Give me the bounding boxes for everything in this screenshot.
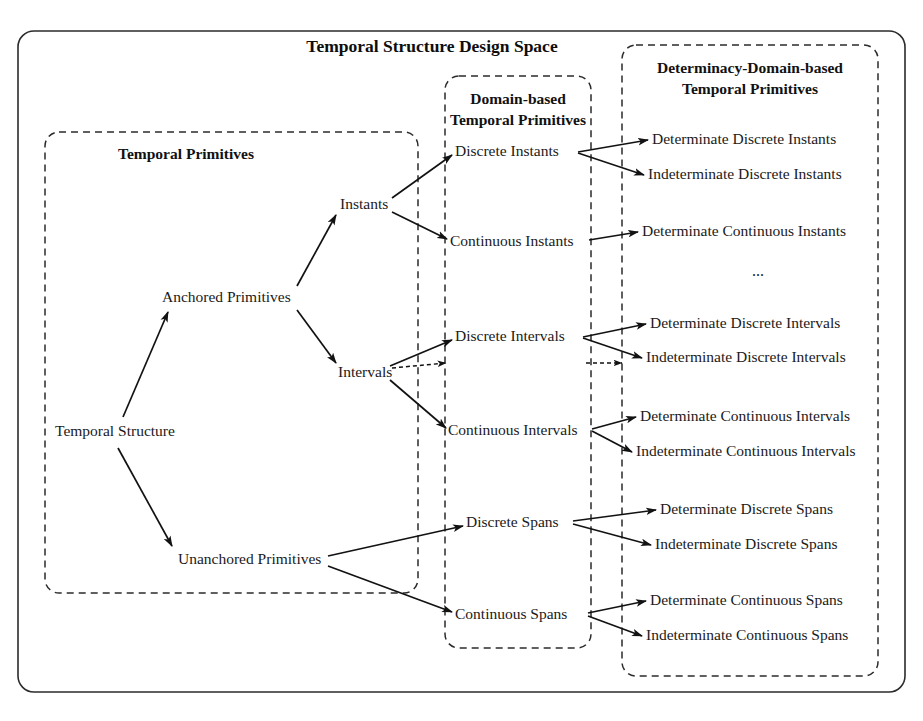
node-anchored-primitives: Anchored Primitives — [162, 288, 291, 305]
node-continuous-intervals: Continuous Intervals — [448, 421, 578, 438]
panel-domain-based-temporal-primitives — [445, 76, 591, 648]
edge-continuous-spans-to-determinate-continuous-spans — [588, 601, 646, 613]
temporal-structure-design-space-diagram: Temporal Structure Design Space Temporal… — [0, 0, 923, 721]
node-unanchored-primitives: Unanchored Primitives — [178, 550, 321, 567]
edge-intervals-to-domain-boundary-dashed — [392, 363, 446, 368]
edge-continuous-instants-to-determinate-continuous-instants — [589, 232, 638, 240]
edge-intervals-to-discrete-intervals — [390, 340, 452, 366]
node-determinate-continuous-intervals: Determinate Continuous Intervals — [640, 407, 850, 424]
node-intervals: Intervals — [338, 363, 392, 380]
node-continuous-spans: Continuous Spans — [455, 605, 567, 622]
node-determinate-continuous-instants: Determinate Continuous Instants — [642, 222, 846, 239]
edge-discrete-instants-to-indeterminate-discrete-instants — [578, 153, 644, 175]
node-discrete-instants: Discrete Instants — [455, 142, 559, 159]
node-indeterminate-continuous-intervals: Indeterminate Continuous Intervals — [636, 442, 856, 459]
node-indeterminate-discrete-instants: Indeterminate Discrete Instants — [648, 165, 842, 182]
node-indeterminate-discrete-intervals: Indeterminate Discrete Intervals — [646, 348, 846, 365]
node-discrete-spans: Discrete Spans — [466, 513, 559, 530]
edge-discrete-intervals-to-indeterminate-discrete-intervals — [583, 338, 642, 358]
edge-instants-to-discrete-instants — [392, 155, 452, 198]
panel-title-temporal-primitives: Temporal Primitives — [118, 145, 254, 162]
node-instants: Instants — [340, 195, 388, 212]
edge-continuous-intervals-to-determinate-continuous-intervals — [592, 417, 636, 429]
node-indeterminate-discrete-spans: Indeterminate Discrete Spans — [655, 535, 838, 552]
node-determinate-continuous-spans: Determinate Continuous Spans — [650, 591, 843, 608]
edge-discrete-spans-to-determinate-discrete-spans — [573, 510, 656, 521]
edge-unanchored-primitives-to-discrete-spans — [328, 526, 463, 556]
edge-anchored-primitives-to-intervals — [297, 310, 336, 363]
edge-temporal-structure-to-anchored-primitives — [123, 312, 168, 417]
edge-continuous-intervals-to-indeterminate-continuous-intervals — [592, 431, 632, 452]
panel-title-domain-based-line1: Domain-based — [470, 90, 566, 107]
edge-discrete-spans-to-indeterminate-discrete-spans — [573, 524, 651, 545]
node-determinate-discrete-intervals: Determinate Discrete Intervals — [650, 314, 840, 331]
node-indeterminate-continuous-spans: Indeterminate Continuous Spans — [646, 626, 848, 643]
panel-title-determinacy-domain-based-line1: Determinacy-Domain-based — [657, 59, 843, 76]
node-determinate-discrete-spans: Determinate Discrete Spans — [660, 500, 833, 517]
edge-unanchored-primitives-to-continuous-spans — [328, 566, 452, 612]
edge-temporal-structure-to-unanchored-primitives — [118, 448, 172, 546]
edge-discrete-intervals-to-determinate-discrete-intervals — [583, 324, 646, 337]
edge-discrete-instants-to-determinate-discrete-instants — [578, 140, 648, 152]
node-determinate-discrete-instants: Determinate Discrete Instants — [652, 130, 836, 147]
node-continuous-instants: Continuous Instants — [450, 232, 574, 249]
panel-title-determinacy-domain-based-line2: Temporal Primitives — [682, 80, 818, 97]
diagram-title: Temporal Structure Design Space — [306, 36, 558, 56]
node-ellipsis: ... — [752, 262, 764, 279]
node-temporal-structure: Temporal Structure — [55, 422, 175, 439]
edge-continuous-spans-to-indeterminate-continuous-spans — [588, 616, 642, 636]
panel-title-domain-based-line2: Temporal Primitives — [450, 111, 586, 128]
diagram-page: Temporal Structure Design Space Temporal… — [0, 0, 923, 721]
edge-instants-to-continuous-instants — [392, 212, 447, 239]
node-discrete-intervals: Discrete Intervals — [455, 327, 565, 344]
edge-anchored-primitives-to-instants — [297, 215, 336, 286]
